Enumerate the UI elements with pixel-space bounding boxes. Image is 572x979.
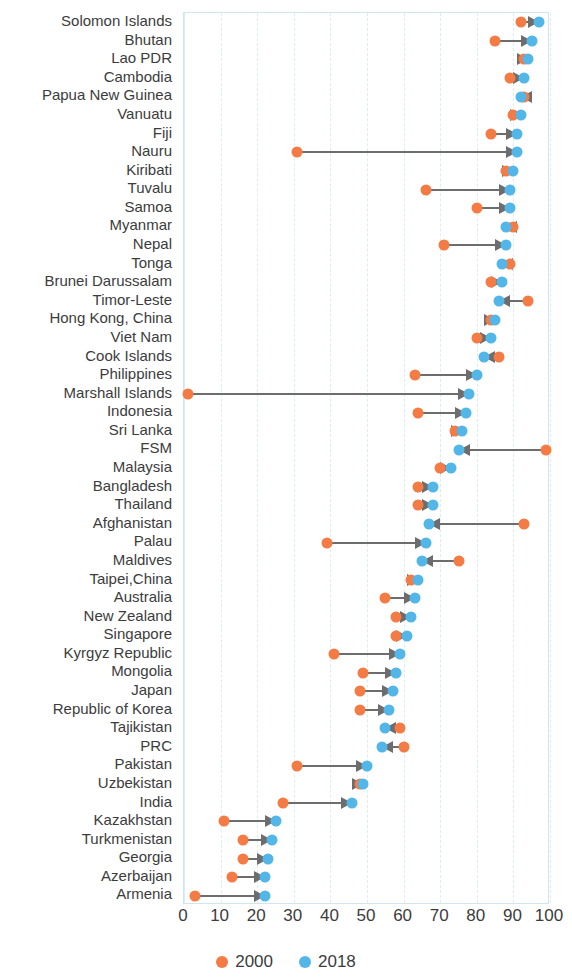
data-point-2018[interactable]	[501, 240, 512, 251]
data-point-2018[interactable]	[519, 73, 530, 84]
data-row[interactable]	[184, 366, 548, 385]
data-row[interactable]	[184, 13, 548, 32]
data-row[interactable]	[184, 236, 548, 255]
data-point-2000[interactable]	[219, 816, 230, 827]
data-row[interactable]	[184, 645, 548, 664]
data-point-2018[interactable]	[383, 704, 394, 715]
data-point-2018[interactable]	[409, 593, 420, 604]
data-row[interactable]	[184, 868, 548, 887]
data-row[interactable]	[184, 775, 548, 794]
data-point-2000[interactable]	[354, 704, 365, 715]
data-row[interactable]	[184, 831, 548, 850]
data-row[interactable]	[184, 794, 548, 813]
data-point-2018[interactable]	[427, 500, 438, 511]
data-row[interactable]	[184, 292, 548, 311]
data-point-2000[interactable]	[471, 203, 482, 214]
data-point-2000[interactable]	[413, 500, 424, 511]
data-point-2018[interactable]	[270, 816, 281, 827]
data-point-2018[interactable]	[420, 537, 431, 548]
data-row[interactable]	[184, 533, 548, 552]
data-point-2000[interactable]	[354, 686, 365, 697]
data-row[interactable]	[184, 571, 548, 590]
data-row[interactable]	[184, 199, 548, 218]
data-point-2018[interactable]	[362, 760, 373, 771]
data-point-2000[interactable]	[409, 370, 420, 381]
data-row[interactable]	[184, 812, 548, 831]
data-row[interactable]	[184, 273, 548, 292]
data-point-2000[interactable]	[515, 17, 526, 28]
data-point-2018[interactable]	[457, 426, 468, 437]
data-row[interactable]	[184, 626, 548, 645]
data-row[interactable]	[184, 756, 548, 775]
data-row[interactable]	[184, 849, 548, 868]
data-point-2018[interactable]	[380, 723, 391, 734]
data-point-2000[interactable]	[277, 797, 288, 808]
data-point-2000[interactable]	[398, 742, 409, 753]
data-point-2000[interactable]	[380, 593, 391, 604]
data-row[interactable]	[184, 87, 548, 106]
data-point-2000[interactable]	[453, 556, 464, 567]
data-point-2000[interactable]	[358, 667, 369, 678]
data-point-2000[interactable]	[182, 388, 193, 399]
data-point-2018[interactable]	[453, 444, 464, 455]
data-point-2000[interactable]	[391, 611, 402, 622]
data-row[interactable]	[184, 701, 548, 720]
data-point-2000[interactable]	[420, 184, 431, 195]
data-point-2018[interactable]	[515, 110, 526, 121]
data-point-2000[interactable]	[438, 240, 449, 251]
data-row[interactable]	[184, 478, 548, 497]
data-point-2000[interactable]	[504, 73, 515, 84]
data-point-2018[interactable]	[402, 630, 413, 641]
data-point-2000[interactable]	[413, 481, 424, 492]
data-row[interactable]	[184, 143, 548, 162]
data-point-2018[interactable]	[358, 779, 369, 790]
data-point-2018[interactable]	[259, 890, 270, 901]
data-point-2018[interactable]	[464, 388, 475, 399]
data-row[interactable]	[184, 310, 548, 329]
data-point-2018[interactable]	[504, 184, 515, 195]
data-point-2018[interactable]	[405, 611, 416, 622]
legend-item-2000[interactable]: 2000	[216, 952, 273, 972]
data-point-2000[interactable]	[391, 630, 402, 641]
data-point-2018[interactable]	[497, 277, 508, 288]
data-point-2018[interactable]	[490, 314, 501, 325]
data-point-2000[interactable]	[519, 519, 530, 530]
data-point-2018[interactable]	[446, 463, 457, 474]
data-point-2018[interactable]	[526, 35, 537, 46]
data-row[interactable]	[184, 69, 548, 88]
data-point-2000[interactable]	[394, 723, 405, 734]
data-row[interactable]	[184, 422, 548, 441]
data-point-2018[interactable]	[427, 481, 438, 492]
data-row[interactable]	[184, 385, 548, 404]
data-point-2018[interactable]	[508, 165, 519, 176]
data-row[interactable]	[184, 496, 548, 515]
data-row[interactable]	[184, 162, 548, 181]
legend-item-2018[interactable]: 2018	[299, 952, 356, 972]
data-point-2018[interactable]	[376, 742, 387, 753]
data-point-2018[interactable]	[391, 667, 402, 678]
data-point-2018[interactable]	[497, 258, 508, 269]
data-row[interactable]	[184, 552, 548, 571]
data-row[interactable]	[184, 32, 548, 51]
data-point-2018[interactable]	[413, 574, 424, 585]
data-row[interactable]	[184, 589, 548, 608]
data-point-2018[interactable]	[504, 203, 515, 214]
data-row[interactable]	[184, 738, 548, 757]
data-point-2018[interactable]	[387, 686, 398, 697]
data-point-2018[interactable]	[416, 556, 427, 567]
data-point-2018[interactable]	[501, 221, 512, 232]
data-point-2000[interactable]	[486, 277, 497, 288]
data-point-2000[interactable]	[292, 147, 303, 158]
data-row[interactable]	[184, 682, 548, 701]
data-row[interactable]	[184, 217, 548, 236]
data-point-2018[interactable]	[424, 519, 435, 530]
data-row[interactable]	[184, 125, 548, 144]
data-row[interactable]	[184, 719, 548, 738]
data-point-2000[interactable]	[329, 649, 340, 660]
data-row[interactable]	[184, 403, 548, 422]
data-row[interactable]	[184, 663, 548, 682]
data-row[interactable]	[184, 180, 548, 199]
data-point-2018[interactable]	[259, 872, 270, 883]
data-point-2018[interactable]	[486, 333, 497, 344]
data-point-2018[interactable]	[471, 370, 482, 381]
